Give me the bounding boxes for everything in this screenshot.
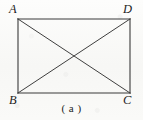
vertex-label-a: A [9,3,17,16]
figure-caption: ( a ) [0,103,143,114]
vertex-label-d: D [123,3,132,16]
geometry-figure: A D B C ( a ) [0,0,143,120]
